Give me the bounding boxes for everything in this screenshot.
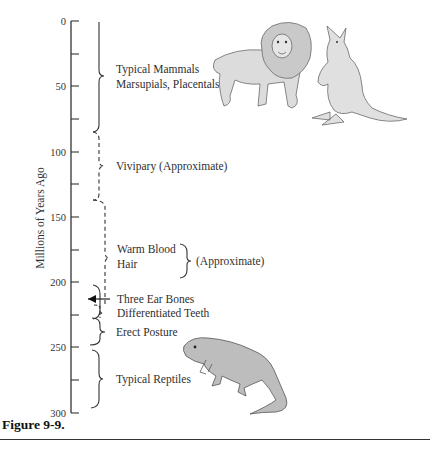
tick-label: 200 bbox=[50, 277, 66, 288]
erect-posture-brace bbox=[90, 318, 105, 345]
label-vivipary: Vivipary (Approximate) bbox=[116, 160, 228, 173]
label-three-ear-bones: Three Ear Bones bbox=[117, 293, 195, 305]
label-erect-posture: Erect Posture bbox=[116, 326, 178, 338]
axis-ticks: 050100150200250300 bbox=[50, 16, 79, 419]
mammals-brace bbox=[93, 22, 104, 132]
figure-caption: Figure 9-9. bbox=[2, 417, 65, 433]
tick-label: 100 bbox=[50, 147, 66, 158]
vivipary-brace bbox=[93, 132, 104, 200]
evolution-timeline-diagram: 050100150200250300 Millions of Years Ago… bbox=[0, 0, 434, 456]
caption-divider bbox=[0, 439, 430, 440]
tick-label: 150 bbox=[50, 212, 66, 223]
kangaroo-illustration bbox=[312, 26, 407, 125]
arrow-left-icon bbox=[88, 295, 96, 303]
tick-label: 0 bbox=[61, 16, 66, 27]
label-warm-blood: Warm Blood bbox=[117, 243, 176, 255]
lizard-illustration bbox=[183, 338, 287, 414]
label-approximate-note: (Approximate) bbox=[196, 255, 265, 268]
approximate-brace bbox=[180, 244, 191, 278]
reptiles-brace bbox=[91, 350, 103, 408]
label-hair: Hair bbox=[117, 258, 138, 270]
warm-blood-brace bbox=[93, 200, 109, 305]
tick-label: 250 bbox=[50, 342, 66, 353]
label-marsupials-placentals: Marsupials, Placentals bbox=[116, 78, 220, 91]
label-typical-reptiles: Typical Reptiles bbox=[116, 373, 191, 386]
axis-title: Millions of Years Ago bbox=[34, 167, 47, 269]
lion-illustration bbox=[213, 22, 311, 108]
tick-label: 50 bbox=[56, 81, 67, 92]
label-differentiated-teeth: Differentiated Teeth bbox=[117, 307, 210, 319]
label-typical-mammals: Typical Mammals bbox=[116, 63, 200, 76]
